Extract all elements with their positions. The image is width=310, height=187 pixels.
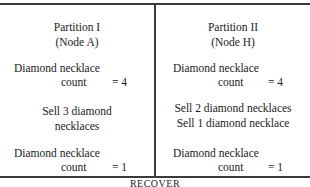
count-label: Diamond necklace	[173, 146, 303, 160]
partition-1-action-2: necklaces	[0, 119, 154, 133]
count-word: count	[61, 75, 87, 89]
count-word: count	[218, 75, 244, 89]
partition-1-action-1: Sell 3 diamond	[0, 104, 154, 118]
count-value: = 1	[112, 160, 127, 174]
count-label: Diamond necklace	[173, 61, 303, 75]
partition-2-action-2: Sell 1 diamond necklace	[156, 116, 310, 130]
partition-2: Partition II (Node H) Diamond necklace c…	[156, 4, 310, 176]
count-word: count	[218, 160, 244, 174]
partition-1-final-count: Diamond necklace count = 1	[14, 146, 144, 174]
partition-1-node: (Node A)	[0, 35, 154, 49]
partition-2-title: Partition II	[156, 20, 310, 34]
partition-1-initial-count: Diamond necklace count = 4	[14, 61, 144, 89]
count-value: = 4	[112, 75, 127, 89]
recover-label: RECOVER	[0, 178, 310, 187]
count-value: = 1	[268, 160, 283, 174]
partition-1: Partition I (Node A) Diamond necklace co…	[0, 4, 154, 176]
partition-2-node: (Node H)	[156, 35, 310, 49]
count-label: Diamond necklace	[14, 61, 144, 75]
partition-2-initial-count: Diamond necklace count = 4	[173, 61, 303, 89]
count-word: count	[61, 160, 87, 174]
count-value: = 4	[268, 75, 283, 89]
partition-2-action-1: Sell 2 diamond necklaces	[156, 101, 310, 115]
partition-2-final-count: Diamond necklace count = 1	[173, 146, 303, 174]
partition-1-title: Partition I	[0, 20, 154, 34]
count-label: Diamond necklace	[14, 146, 144, 160]
